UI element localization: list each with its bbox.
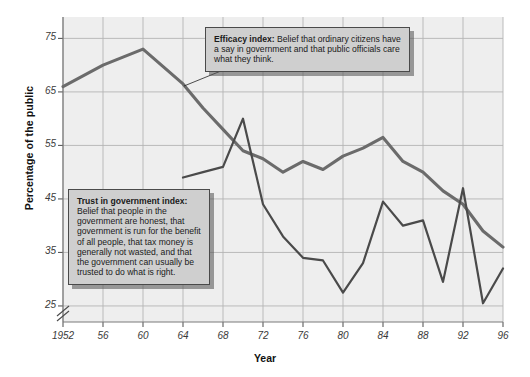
x-tick-label: 80 bbox=[321, 330, 365, 341]
x-tick-label: 68 bbox=[201, 330, 245, 341]
x-tick-label: 92 bbox=[441, 330, 485, 341]
x-axis-tick-marks bbox=[63, 322, 503, 327]
y-tick-label: 35 bbox=[18, 245, 56, 256]
x-tick-label: 60 bbox=[121, 330, 165, 341]
x-tick-label: 56 bbox=[81, 330, 125, 341]
x-tick-label: 64 bbox=[161, 330, 205, 341]
annotation-trust-title: Trust in government index: bbox=[77, 196, 187, 206]
x-axis-title: Year bbox=[0, 352, 530, 364]
x-tick-label: 1952 bbox=[41, 330, 85, 341]
x-tick-label: 84 bbox=[361, 330, 405, 341]
annotation-trust-index: Trust in government index: Belief that p… bbox=[68, 189, 210, 285]
x-tick-label: 72 bbox=[241, 330, 285, 341]
x-tick-label: 76 bbox=[281, 330, 325, 341]
annotation-efficacy-index: Efficacy index: Belief that ordinary cit… bbox=[205, 27, 410, 72]
chart-figure: 253545556575 19525660646872768084889296 … bbox=[0, 0, 530, 377]
y-axis-title: Percentage of the public bbox=[23, 73, 35, 223]
y-tick-label: 25 bbox=[18, 299, 56, 310]
y-axis-tick-marks bbox=[58, 38, 63, 306]
y-tick-label: 75 bbox=[18, 31, 56, 42]
annotation-efficacy-title: Efficacy index: bbox=[214, 34, 275, 44]
x-tick-label: 88 bbox=[401, 330, 445, 341]
x-tick-label: 96 bbox=[481, 330, 525, 341]
annotation-trust-body: Belief that people in the government are… bbox=[77, 206, 201, 277]
